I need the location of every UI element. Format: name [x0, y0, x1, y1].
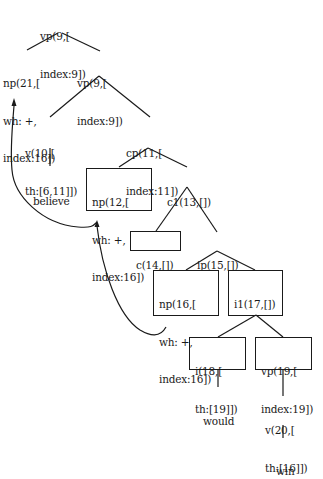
node-label: vp(19,[	[261, 365, 307, 378]
node-np16: np(16,[ wh: +, index:16])	[153, 270, 219, 316]
leaf-believe: believe	[33, 170, 70, 233]
node-label: index:9])	[77, 115, 123, 128]
leaf-word: believe	[33, 195, 70, 208]
node-label: cp(11,[	[126, 147, 178, 160]
node-label: v(10,[	[25, 147, 77, 160]
node-vp9: vp(9,[ index:9])	[77, 52, 123, 152]
leaf-would: would	[203, 390, 234, 453]
node-vp19: vp(19,[ index:19])	[255, 337, 312, 370]
node-label: vp(9,[	[40, 30, 86, 43]
node-label: v(20,[	[265, 424, 307, 437]
node-label: vp(9,[	[77, 77, 123, 90]
node-label: np(12,[	[92, 196, 147, 209]
node-label: i1(17,[])	[234, 298, 278, 311]
node-i1-17: i1(17,[])	[228, 270, 283, 316]
node-label: i(18,[	[195, 365, 241, 378]
leaf-word: win	[276, 465, 295, 478]
node-label: np(16,[	[159, 298, 214, 311]
node-c14: c(14,[])	[130, 231, 181, 251]
leaf-word: would	[203, 415, 234, 428]
node-label: np(21,[	[3, 77, 55, 90]
node-np12: np(12,[ wh: +, index:16])	[86, 168, 152, 211]
node-i18: i(18,[ th:[19]])	[189, 337, 246, 370]
node-label: c1(13,[])	[167, 196, 211, 209]
node-c1-13: c1(13,[])	[167, 171, 211, 234]
leaf-win: win	[276, 440, 295, 479]
